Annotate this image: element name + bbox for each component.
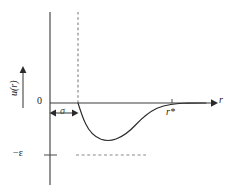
sigma-arrowhead-right — [72, 110, 79, 117]
y-direction-arrowhead — [20, 66, 27, 73]
figure-canvas — [0, 0, 232, 194]
x-axis-label: r — [219, 95, 223, 105]
origin-label: 0 — [37, 96, 42, 106]
potential-curve — [78, 103, 206, 140]
potential-energy-figure: u(r) 0 −ε σ r* r — [0, 0, 232, 194]
y-axis-label: u(r) — [9, 80, 19, 96]
sigma-dimension-label: σ — [60, 106, 65, 116]
epsilon-axis-label: −ε — [13, 148, 23, 158]
r-star-label: r* — [166, 107, 175, 117]
x-axis-arrowhead — [211, 99, 218, 107]
